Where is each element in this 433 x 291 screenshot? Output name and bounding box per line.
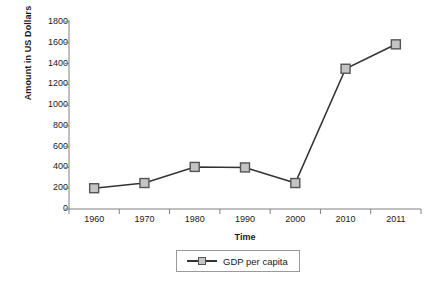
axis-lines <box>69 20 421 209</box>
data-point-marker <box>190 162 199 171</box>
gdp-per-capita-line-chart: Amount in US Dollars 0200400600800100012… <box>0 0 433 291</box>
chart-legend: GDP per capita <box>176 250 300 272</box>
legend-label: GDP per capita <box>223 256 288 267</box>
data-point-marker <box>291 179 300 188</box>
plot-area <box>0 0 433 291</box>
series-markers-gdp-per-capita <box>90 40 401 193</box>
data-point-marker <box>341 64 350 73</box>
legend-marker-icon <box>187 256 217 266</box>
data-point-marker <box>140 179 149 188</box>
x-axis-title: Time <box>69 232 421 242</box>
x-tick-label: 2011 <box>366 214 426 224</box>
data-point-marker <box>241 163 250 172</box>
data-point-marker <box>391 40 400 49</box>
data-point-marker <box>90 184 99 193</box>
y-axis-ticks <box>65 22 69 209</box>
